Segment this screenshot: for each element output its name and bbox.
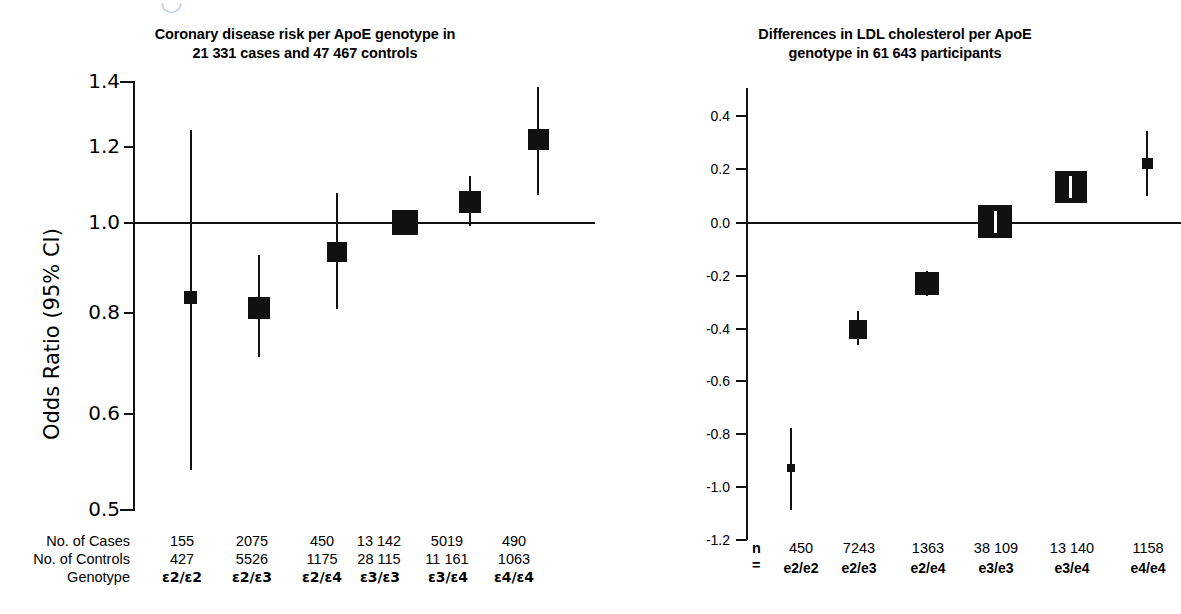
table-cell-genotype-5: ε3/ε4: [428, 569, 468, 586]
table-cell-n-1: 450: [789, 540, 813, 557]
table-cell-n-5: 13 140: [1050, 540, 1094, 557]
table-cell-genotype-r3: e2/e4: [910, 560, 945, 577]
table-cell-n-2: 7243: [843, 540, 875, 557]
y-tick-neg-0-8: [736, 433, 747, 435]
table-cell-genotype-r4: e3/e3: [978, 560, 1013, 577]
y-tick-label-0-5: 0.5: [55, 499, 120, 519]
y-tick-label-0-6: 0.6: [55, 403, 120, 423]
y-tick-label-0-2: 0.2: [678, 162, 730, 176]
y-tick-neg-0-4: [736, 328, 747, 330]
table-cell-genotype-1: ε2/ε2: [162, 569, 202, 586]
figure-canvas: ◡ Coronary disease risk per ApoE genotyp…: [0, 0, 1181, 614]
confidence-interval-e3-e3-ldl: [994, 211, 997, 233]
y-tick-label-neg-1-2: -1.2: [678, 533, 730, 547]
table-cell-n-4: 38 109: [974, 540, 1018, 557]
panel-title-right-line2: genotype in 61 643 participants: [789, 45, 1002, 61]
effect-marker-e2-e4: [327, 242, 347, 262]
effect-marker-e2-e2: [184, 291, 197, 304]
y-tick-label-neg-0-8: -0.8: [678, 427, 730, 441]
effect-marker-e2-e2-ldl: [787, 464, 795, 472]
table-cell-cases-2: 2075: [236, 533, 268, 550]
y-tick-label-0-0: 0.0: [678, 216, 730, 230]
y-axis-spine-right: [746, 88, 748, 540]
panel-title-left-line2: 21 331 cases and 47 467 controls: [193, 45, 418, 61]
effect-marker-e3-e3: [392, 210, 418, 235]
table-cell-cases-5: 5019: [431, 533, 463, 550]
effect-marker-e2-e4-ldl: [915, 272, 939, 295]
y-tick-neg-0-2: [736, 275, 747, 277]
y-tick-0-6: [124, 413, 134, 415]
y-tick-0-2: [736, 168, 747, 170]
y-tick-label-neg-1-0: -1.0: [678, 480, 730, 494]
y-tick-label-1-4: 1.4: [55, 71, 120, 91]
table-cell-genotype-3: ε2/ε4: [302, 569, 342, 586]
y-tick-label-1-2: 1.2: [55, 136, 120, 156]
effect-marker-e4-e4-ldl: [1142, 158, 1153, 169]
table-cell-n-6: 1158: [1132, 540, 1163, 557]
table-cell-controls-2: 5526: [236, 551, 268, 568]
y-tick-label-neg-0-4: -0.4: [678, 322, 730, 336]
y-tick-label-0-8: 0.8: [55, 302, 120, 322]
table-row-label-n: n =: [752, 540, 761, 574]
panel-coronary-risk: Coronary disease risk per ApoE genotype …: [0, 0, 600, 614]
reference-line-zero: [746, 222, 1181, 224]
table-cell-cases-6: 490: [502, 533, 526, 550]
table-cell-genotype-r1: e2/e2: [783, 560, 818, 577]
y-tick-1-2: [124, 146, 134, 148]
panel-title-left-line1: Coronary disease risk per ApoE genotype …: [155, 26, 456, 42]
table-cell-controls-6: 1063: [498, 551, 530, 568]
y-axis-bottom-cap-left: [120, 509, 134, 511]
table-cell-n-3: 1363: [912, 540, 944, 557]
panel-ldl-difference: Differences in LDL cholesterol per ApoE …: [600, 0, 1181, 614]
y-tick-0-8: [124, 312, 134, 314]
table-cell-cases-4: 13 142: [357, 533, 401, 550]
y-tick-label-0-4: 0.4: [678, 109, 730, 123]
y-tick-neg-1-2: [736, 539, 747, 541]
panel-title-left: Coronary disease risk per ApoE genotype …: [60, 25, 550, 63]
y-tick-neg-1-0: [736, 486, 747, 488]
y-tick-0-4: [736, 115, 747, 117]
y-tick-label-neg-0-6: -0.6: [678, 374, 730, 388]
table-row-label-cases: No. of Cases: [0, 533, 130, 550]
effect-marker-e2-e3-ldl: [849, 320, 867, 339]
table-cell-controls-3: 1175: [306, 551, 337, 568]
panel-title-right: Differences in LDL cholesterol per ApoE …: [660, 25, 1130, 63]
table-cell-cases-1: 155: [170, 533, 194, 550]
table-cell-genotype-6: ε4/ε4: [494, 569, 534, 586]
effect-marker-e2-e3: [248, 297, 270, 319]
y-tick-neg-0-6: [736, 380, 747, 382]
table-cell-genotype-4: ε3/ε3: [360, 569, 400, 586]
y-tick-label-1-0: 1.0: [55, 212, 120, 232]
panel-title-right-line1: Differences in LDL cholesterol per ApoE: [758, 26, 1031, 42]
table-cell-cases-3: 450: [310, 533, 334, 550]
reference-line-or-1: [133, 222, 595, 224]
table-cell-controls-1: 427: [170, 551, 194, 568]
confidence-interval-e3-e4-ldl: [1069, 176, 1072, 198]
table-cell-genotype-2: ε2/ε3: [232, 569, 272, 586]
y-tick-1-4: [124, 81, 134, 83]
effect-marker-e4-e4: [528, 129, 549, 150]
table-cell-controls-5: 11 161: [425, 551, 468, 568]
table-row-label-genotype: Genotype: [0, 569, 130, 586]
table-cell-controls-4: 28 115: [357, 551, 400, 568]
table-cell-genotype-r6: e4/e4: [1130, 560, 1165, 577]
table-row-label-controls: No. of Controls: [0, 551, 130, 568]
y-tick-label-neg-0-2: -0.2: [678, 269, 730, 283]
effect-marker-e3-e4: [459, 191, 481, 213]
table-cell-genotype-r5: e3/e4: [1054, 560, 1089, 577]
table-cell-genotype-r2: e2/e3: [841, 560, 876, 577]
